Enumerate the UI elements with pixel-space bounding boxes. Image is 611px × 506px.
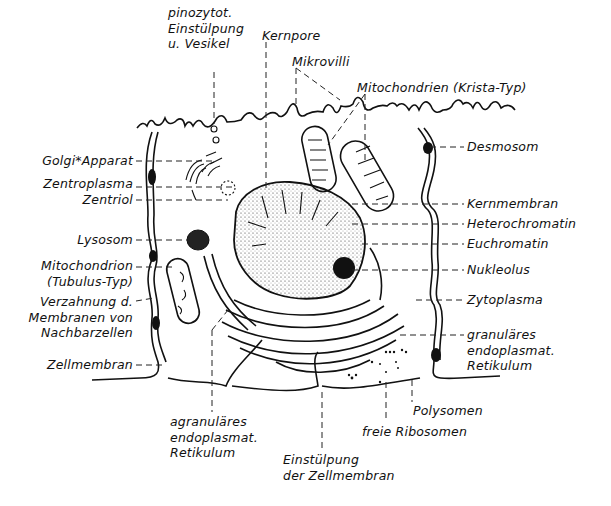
- golgi-apparatus: [186, 152, 222, 200]
- label-lysosom: Lysosom: [77, 232, 133, 248]
- label-mikrovilli: Mikrovilli: [292, 54, 350, 70]
- label-nukleolus: Nukleolus: [467, 262, 530, 278]
- label-pinozytot: pinozytot. Einstülpung u. Vesikel: [168, 5, 244, 52]
- label-desmosom: Desmosom: [467, 139, 539, 155]
- label-heterochromatin: Heterochromatin: [467, 216, 576, 232]
- label-kernmembran: Kernmembran: [467, 196, 558, 212]
- label-zytoplasma: Zytoplasma: [467, 292, 543, 308]
- label-mitochondrion-tubulus: Mitochondrion (Tubulus-Typ): [41, 258, 133, 289]
- label-kernpore: Kernpore: [262, 28, 321, 44]
- desmosome-left-3: [152, 316, 160, 330]
- cell-diagram: [0, 0, 611, 506]
- nucleolus: [333, 257, 355, 279]
- label-golgi: Golgi*Apparat: [42, 153, 133, 169]
- label-agranulaeres-er: agranuläres endoplasmat. Retikulum: [170, 414, 258, 461]
- microvilli-membrane: [137, 97, 515, 128]
- nucleus: [234, 182, 365, 299]
- desmosome-left-1: [148, 169, 156, 185]
- centriole: [221, 181, 235, 195]
- desmosome-right-1: [423, 142, 433, 154]
- left-membrane: [92, 132, 159, 380]
- label-zentriol: Zentriol: [83, 192, 133, 208]
- desmosome-left-2: [149, 250, 157, 262]
- label-polysomen: Polysomen: [413, 403, 483, 419]
- desmosome-right-2: [431, 348, 441, 362]
- label-zentroplasma: Zentroplasma: [43, 176, 133, 192]
- label-einstuelpung: Einstülpung der Zellmembran: [283, 452, 395, 483]
- label-granulaeres-er: granuläres endoplasmat. Retikulum: [467, 327, 555, 374]
- label-verzahnung: Verzahnung d. Membranen von Nachbarzelle…: [29, 294, 133, 341]
- label-euchromatin: Euchromatin: [467, 236, 549, 252]
- lysosome: [187, 230, 209, 250]
- label-freie-ribosomen: freie Ribosomen: [362, 424, 467, 440]
- label-mitochondrien-krista: Mitochondrien (Krista-Typ): [357, 80, 527, 96]
- label-zellmembran: Zellmembran: [47, 357, 133, 373]
